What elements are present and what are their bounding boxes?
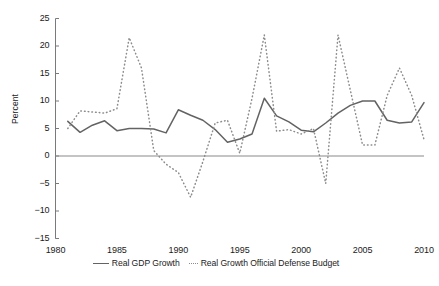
legend-label: Real GDP Growth	[112, 258, 180, 268]
x-tick-label: 1995	[220, 245, 260, 255]
x-tick-label: 1985	[97, 245, 137, 255]
y-tick-label: 5	[16, 123, 50, 133]
y-tick-label: 0	[16, 150, 50, 160]
x-tick-label: 2010	[404, 245, 439, 255]
legend-entry-1: Real GDP Growth	[93, 258, 180, 268]
y-tick-label: 10	[16, 95, 50, 105]
y-tick-label: 20	[16, 40, 50, 50]
x-tick-label: 2005	[343, 245, 383, 255]
series-line-2	[68, 35, 424, 197]
legend-solid-swatch-icon	[93, 263, 109, 264]
figure-caption	[10, 279, 426, 286]
y-tick-label: 25	[16, 13, 50, 23]
legend-dotted-swatch-icon	[189, 263, 198, 264]
y-tick-label: −10	[16, 205, 50, 215]
legend-entry-2: Real Growth Official Defense Budget	[189, 258, 340, 268]
y-tick-label: −5	[16, 178, 50, 188]
x-tick-label: 1980	[36, 245, 76, 255]
y-tick-label: −15	[16, 233, 50, 243]
x-tick-label: 2000	[281, 245, 321, 255]
axes	[56, 19, 425, 239]
data-series-group	[68, 35, 424, 197]
series-line-1	[68, 98, 424, 142]
y-tick-label: 15	[16, 68, 50, 78]
x-tick-label: 1990	[158, 245, 198, 255]
legend-label: Real Growth Official Defense Budget	[201, 258, 340, 268]
chart-legend: Real GDP GrowthReal Growth Official Defe…	[0, 258, 432, 268]
